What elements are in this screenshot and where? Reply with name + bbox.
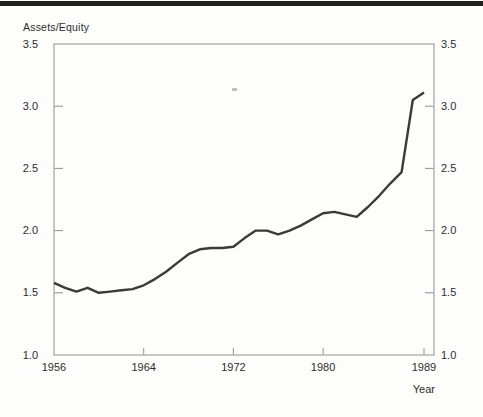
y-tick-label-left: 3.0 <box>23 100 38 112</box>
y-tick-label-left: 2.5 <box>23 162 38 174</box>
y-tick-label-right: 2.5 <box>441 162 456 174</box>
line-chart: 1.01.01.51.52.02.02.52.53.03.03.53.51956… <box>0 0 483 417</box>
x-tick-label: 1964 <box>131 361 155 373</box>
scan-smudge-artifact <box>232 88 237 91</box>
y-tick-label-right: 1.5 <box>441 286 456 298</box>
x-tick-label: 1956 <box>42 361 66 373</box>
y-tick-label-right: 3.0 <box>441 100 456 112</box>
x-tick-label: 1989 <box>412 361 436 373</box>
x-tick-label: 1980 <box>311 361 335 373</box>
y-tick-label-right: 2.0 <box>441 224 456 236</box>
y-tick-label-left: 1.5 <box>23 286 38 298</box>
y-tick-label-left: 3.5 <box>23 38 38 50</box>
x-axis-title: Year <box>413 383 435 395</box>
chart-page: Assets/Equity 1.01.01.51.52.02.02.52.53.… <box>0 0 483 417</box>
x-tick-label: 1972 <box>221 361 245 373</box>
y-tick-label-right: 3.5 <box>441 38 456 50</box>
y-tick-label-left: 2.0 <box>23 224 38 236</box>
y-tick-label-left: 1.0 <box>23 349 38 361</box>
assets-equity-series-line <box>54 93 424 293</box>
y-tick-label-right: 1.0 <box>441 349 456 361</box>
